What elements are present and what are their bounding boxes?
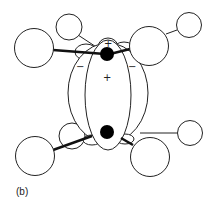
- ligand-large-top-right: [130, 27, 169, 66]
- ligand-large-bottom-left: [16, 137, 55, 176]
- sign-top-plus: +: [104, 39, 112, 49]
- ligand-small-top-right: [177, 13, 202, 38]
- panel-label: (b): [16, 187, 28, 197]
- ligand-small-bottom-right: [178, 121, 203, 146]
- metal-atom-top: [100, 47, 114, 61]
- ligand-small-top-left: [56, 14, 82, 40]
- ligand-large-top-left: [15, 29, 54, 68]
- metal-atom-bottom: [100, 125, 114, 139]
- sign-left-minus: −: [76, 62, 84, 72]
- bond-top-right-small: [166, 30, 177, 34]
- sign-right-minus: −: [128, 62, 136, 72]
- orbital-diagram: [0, 0, 215, 207]
- ligand-large-bottom-right: [131, 138, 170, 177]
- sign-center-plus: +: [103, 73, 111, 83]
